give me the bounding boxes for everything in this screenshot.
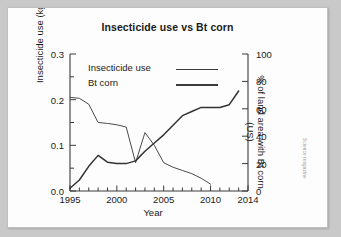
chart-title: Insecticide use vs Bt corn — [8, 21, 327, 33]
figure-panel: Insecticide use vs Bt corn Insecticide u… — [7, 7, 328, 228]
y-axis-left-tick-label: 0.3 — [51, 49, 64, 60]
series-line-insecticide-use — [70, 97, 211, 184]
x-axis-tick-label: 1995 — [59, 194, 80, 205]
x-axis-title: Year — [8, 207, 298, 218]
x-axis-tick-label: 2000 — [106, 194, 127, 205]
y-axis-right-tick-label: 60 — [256, 103, 267, 114]
source-credit: Science magazine — [302, 138, 307, 179]
y-axis-right-tick-label: 20 — [256, 158, 267, 169]
plot-svg — [70, 54, 248, 191]
plot-area — [70, 54, 248, 191]
x-axis-ticklabels: 19952000200520102014 — [70, 194, 248, 208]
y-axis-left-ticklabels: 0.00.10.20.3 — [26, 54, 64, 191]
x-axis-tick-label: 2010 — [200, 194, 221, 205]
y-axis-right-ticklabels: 020406080100 — [256, 54, 286, 191]
x-axis-tick-label: 2014 — [237, 194, 258, 205]
x-axis-tick-label: 2005 — [153, 194, 174, 205]
y-axis-right-tick-label: 40 — [256, 131, 267, 142]
y-axis-right-tick-label: 100 — [256, 49, 272, 60]
y-axis-left-tick-label: 0.1 — [51, 140, 64, 151]
y-axis-left-tick-label: 0.2 — [51, 94, 64, 105]
y-axis-right-tick-label: 80 — [256, 76, 267, 87]
series-line-bt-corn — [70, 91, 239, 188]
